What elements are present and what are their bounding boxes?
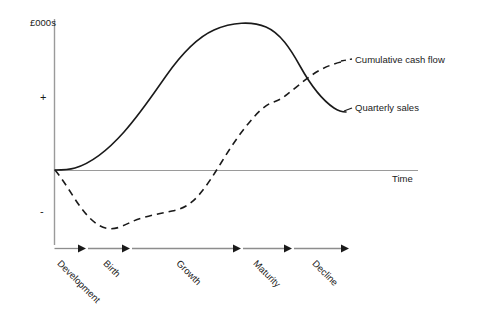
callout-line-quarterly	[344, 108, 352, 111]
x-axis-title: Time	[392, 174, 413, 184]
y-axis-title: £000s	[30, 18, 56, 28]
product-life-cycle-chart: £000s + - Time Cumulative cash flow Quar…	[0, 0, 478, 321]
series-cumulative-cash-flow-line	[55, 61, 346, 229]
y-axis-tick-negative: -	[40, 206, 44, 217]
series-label-quarterly-sales: Quarterly sales	[355, 103, 419, 113]
series-quarterly-sales-line	[55, 23, 346, 170]
series-label-cumulative-cash-flow: Cumulative cash flow	[355, 55, 445, 65]
callout-line-cumulative	[341, 59, 352, 61]
stage-arrow-axis	[55, 245, 350, 253]
y-axis-tick-positive: +	[40, 92, 46, 103]
